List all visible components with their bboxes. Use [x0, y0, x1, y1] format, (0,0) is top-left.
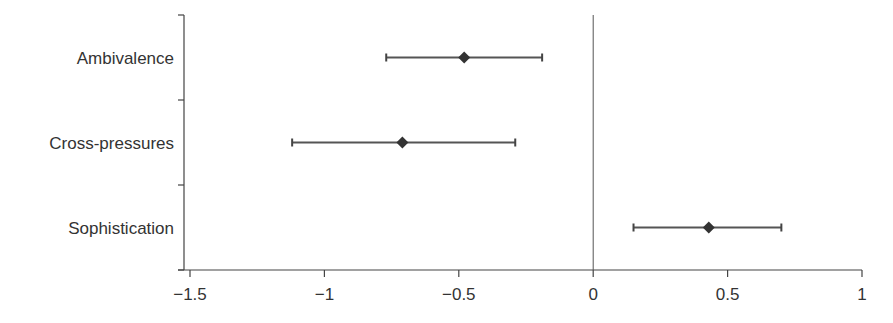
x-tick-label: −0.5 — [442, 285, 476, 304]
coefficient-chart: −1.5−1−0.500.51AmbivalenceCross-pressure… — [0, 0, 893, 323]
category-label: Cross-pressures — [49, 134, 174, 153]
marks — [292, 52, 781, 234]
x-tick-label: −1.5 — [173, 285, 207, 304]
x-tick-label: 0.5 — [716, 285, 740, 304]
x-tick-label: 0 — [588, 285, 597, 304]
estimate-diamond-marker — [703, 222, 715, 234]
estimate-diamond-marker — [458, 52, 470, 64]
estimate-diamond-marker — [396, 137, 408, 149]
category-label: Sophistication — [68, 219, 174, 238]
category-label: Ambivalence — [77, 49, 174, 68]
labels: −1.5−1−0.500.51AmbivalenceCross-pressure… — [49, 49, 866, 305]
x-tick-label: 1 — [857, 285, 866, 304]
axes — [178, 15, 862, 277]
x-tick-label: −1 — [315, 285, 334, 304]
